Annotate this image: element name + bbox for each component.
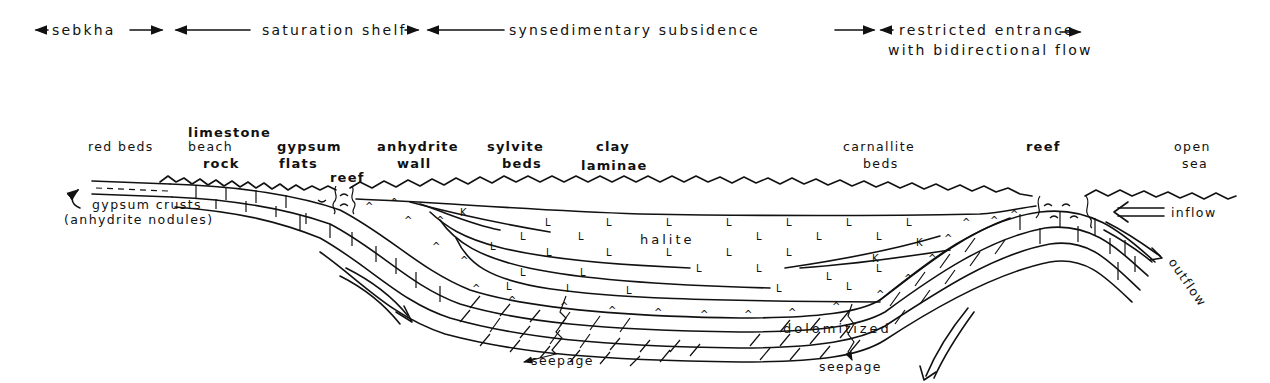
svg-text:^: ^ <box>654 307 662 318</box>
svg-text:L: L <box>846 281 852 292</box>
svg-text:^: ^ <box>744 309 752 320</box>
svg-text:L: L <box>726 247 732 258</box>
svg-text:^: ^ <box>876 289 884 300</box>
svg-text:^: ^ <box>990 215 998 226</box>
zone-label-synsedimentary-subsidence: synsedimentary subsidence <box>509 22 760 38</box>
svg-text:^: ^ <box>962 217 970 228</box>
water-surface <box>160 176 1236 199</box>
label-carnallite: carnallite <box>843 139 915 154</box>
label-wall: wall <box>397 156 432 171</box>
label-limestone: limestone <box>188 125 271 140</box>
label-carnallite-beds: beds <box>863 156 899 171</box>
svg-text:L: L <box>546 247 552 258</box>
svg-text:K: K <box>916 237 923 248</box>
label-gypsum-crusts: gypsum crusts <box>92 197 202 212</box>
svg-text:L: L <box>520 231 526 242</box>
svg-text:L: L <box>786 247 792 258</box>
label-flats: flats <box>279 156 318 171</box>
svg-text:L: L <box>506 281 512 292</box>
outflow-arrow: outflow <box>1104 222 1210 310</box>
label-rock: rock <box>203 156 240 171</box>
svg-text:^: ^ <box>432 241 440 252</box>
flow-arrow-right-down <box>920 308 974 380</box>
svg-text:L: L <box>876 231 882 242</box>
label-sylvite-beds: beds <box>502 156 542 171</box>
svg-text:^: ^ <box>944 233 952 244</box>
label-open: open <box>1174 139 1211 154</box>
label-clay: clay <box>596 139 630 154</box>
zone-label-restricted-entrance: restricted entrance <box>899 22 1075 38</box>
inflow-arrow: inflow <box>1114 202 1217 222</box>
svg-text:L: L <box>566 283 572 294</box>
svg-text:^: ^ <box>472 283 480 294</box>
svg-text:L: L <box>906 217 912 228</box>
svg-text:^: ^ <box>508 295 516 306</box>
svg-text:L: L <box>520 267 526 278</box>
svg-text:L: L <box>876 263 882 274</box>
svg-text:L: L <box>786 217 792 228</box>
svg-text:^: ^ <box>832 301 840 312</box>
label-halite: halite <box>640 232 695 247</box>
label-gypsum: gypsum <box>277 139 342 154</box>
svg-text:L: L <box>545 217 551 228</box>
svg-text:^: ^ <box>788 307 796 318</box>
svg-text:L: L <box>606 247 612 258</box>
svg-text:K: K <box>872 253 879 264</box>
label-reef-right: reef <box>1026 139 1061 154</box>
svg-text:^: ^ <box>460 255 468 266</box>
svg-text:L: L <box>756 263 762 274</box>
svg-text:L: L <box>626 285 632 296</box>
svg-text:L: L <box>490 241 496 252</box>
sebkha-sediments: gypsum crusts (anhydrite nodules) <box>64 181 213 227</box>
svg-text:L: L <box>776 283 782 294</box>
evaporite-fill: halite LLLLLLL LLLLL LLLLLL LLLLLL LLLLL… <box>356 197 1036 320</box>
svg-text:K: K <box>460 207 467 218</box>
evaporite-basin-diagram: sebkha saturation shelf synsedimentary s… <box>0 0 1270 383</box>
svg-text:^: ^ <box>608 305 616 316</box>
zone-label-saturation-shelf: saturation shelf <box>262 22 407 38</box>
svg-text:^: ^ <box>365 201 373 212</box>
svg-text:L: L <box>846 217 852 228</box>
svg-text:^: ^ <box>390 197 398 208</box>
zone-label-sebkha: sebkha <box>52 22 116 38</box>
label-anhydrite-nodules: (anhydrite nodules) <box>64 212 213 227</box>
svg-text:^: ^ <box>404 215 412 226</box>
svg-text:^: ^ <box>928 253 936 264</box>
svg-text:L: L <box>826 271 832 282</box>
label-seepage-right: seepage <box>819 359 882 374</box>
svg-text:^: ^ <box>1010 209 1018 220</box>
svg-text:^: ^ <box>904 273 912 284</box>
svg-text:L: L <box>666 217 672 228</box>
svg-text:L: L <box>816 231 822 242</box>
svg-text:^: ^ <box>700 309 708 320</box>
label-outflow: outflow <box>1166 255 1210 310</box>
label-laminae: laminae <box>581 158 647 173</box>
label-inflow: inflow <box>1171 205 1217 220</box>
label-red-beds: red beds <box>88 139 154 154</box>
label-anhydrite: anhydrite <box>377 139 459 154</box>
label-sea: sea <box>1182 156 1208 171</box>
label-beach: beach <box>188 139 233 154</box>
svg-text:L: L <box>578 231 584 242</box>
zone-bar: sebkha saturation shelf synsedimentary s… <box>36 22 1093 58</box>
label-seepage-left: seepage <box>531 353 594 368</box>
label-dolomitized: dolomitized <box>783 321 892 336</box>
svg-text:L: L <box>726 217 732 228</box>
svg-text:L: L <box>606 217 612 228</box>
svg-text:L: L <box>756 231 762 242</box>
svg-text:^: ^ <box>436 215 444 226</box>
label-sylvite: sylvite <box>487 139 544 154</box>
zone-label-bidirectional-flow: with bidirectional flow <box>888 42 1093 58</box>
svg-text:L: L <box>696 263 702 274</box>
svg-text:L: L <box>666 247 672 258</box>
svg-text:L: L <box>580 267 586 278</box>
